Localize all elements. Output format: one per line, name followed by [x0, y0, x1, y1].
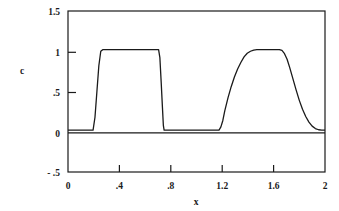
y-tick-label-0p5: .5 — [53, 88, 60, 98]
x-tick-label-2: 2 — [323, 181, 328, 191]
x-tick-label-0p8: .8 — [167, 181, 174, 191]
y-tick-label-1p5: 1.5 — [48, 7, 60, 17]
plot-frame — [68, 11, 325, 172]
y-tick-label-0: 0 — [55, 129, 60, 139]
y-tick-label-minus0p5: - .5 — [47, 168, 60, 178]
x-axis-title: x — [194, 197, 199, 207]
y-tick-label-1: 1 — [55, 48, 60, 58]
x-axis-ticks — [119, 165, 273, 172]
chart-canvas: 1.5 1 .5 0 - .5 0 .4 .8 1.2 1.6 2 c x — [0, 0, 339, 211]
x-tick-label-0: 0 — [66, 181, 71, 191]
data-curve-c — [68, 50, 325, 131]
chart-figure: 1.5 1 .5 0 - .5 0 .4 .8 1.2 1.6 2 c x — [0, 0, 339, 211]
x-tick-label-1p2: 1.2 — [216, 181, 228, 191]
x-tick-label-1p6: 1.6 — [268, 181, 280, 191]
y-axis-title: c — [20, 66, 24, 76]
x-tick-label-0p4: .4 — [116, 181, 123, 191]
y-axis-ticks — [68, 52, 76, 92]
